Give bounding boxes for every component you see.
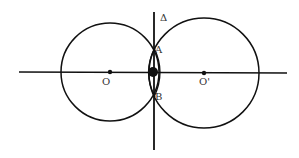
geometry-figure [0,0,299,158]
label-delta: Δ [160,13,167,23]
label-o-prime: O' [199,77,210,87]
label-a: A [155,45,162,55]
center-o-dot [108,70,112,74]
center-o-prime-dot [202,71,206,75]
midpoint-dot [148,67,158,77]
label-b: B [155,92,162,102]
label-o: O [102,77,110,87]
